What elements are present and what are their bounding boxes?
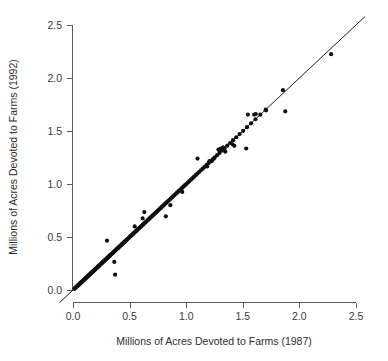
x-tick-group: 0.00.51.01.52.02.5 (66, 303, 364, 323)
x-tick-label: 0.0 (66, 310, 81, 322)
y-tick-label: 1.5 (47, 125, 62, 137)
scatter-plot-figure: 0.00.51.01.52.02.5 0.00.51.01.52.02.5 Mi… (0, 0, 388, 361)
scatter-point (232, 144, 236, 148)
y-tick-group: 0.00.51.01.52.02.5 (47, 19, 72, 296)
x-tick-label: 2.0 (292, 310, 307, 322)
x-tick-label: 1.5 (235, 310, 250, 322)
scatter-point (253, 117, 257, 121)
scatter-point (113, 273, 117, 277)
scatter-point (264, 108, 268, 112)
y-tick-label: 2.0 (47, 72, 62, 84)
scatter-point (164, 214, 168, 218)
scatter-point (168, 203, 172, 207)
scatter-point (112, 260, 116, 264)
scatter-point (231, 138, 235, 142)
y-tick-label: 0.5 (47, 231, 62, 243)
x-axis-title: Millions of Acres Devoted to Farms (1987… (116, 335, 312, 347)
scatter-point (329, 52, 333, 56)
x-tick-label: 1.0 (179, 310, 194, 322)
data-points-layer (59, 17, 365, 303)
scatter-point (283, 109, 287, 113)
scatter-point (249, 121, 253, 125)
scatter-point (244, 146, 248, 150)
scatter-point (241, 129, 245, 133)
scatter-points-group (72, 52, 333, 291)
scatter-point (258, 113, 262, 117)
scatter-point (254, 112, 258, 116)
scatter-point (223, 150, 227, 154)
y-tick-label: 2.5 (47, 19, 62, 31)
y-tick-label: 1.0 (47, 178, 62, 190)
x-tick-label: 2.5 (349, 310, 364, 322)
y-axis-title: Millions of Acres Devoted to Farms (1992… (7, 59, 19, 255)
scatter-point (180, 190, 184, 194)
scatter-point (246, 112, 250, 116)
scatter-point (142, 210, 146, 214)
scatter-point (238, 132, 242, 136)
plot-canvas: 0.00.51.01.52.02.5 0.00.51.01.52.02.5 Mi… (0, 0, 388, 361)
scatter-point (212, 156, 216, 160)
scatter-point (281, 88, 285, 92)
scatter-point (234, 135, 238, 139)
scatter-point (221, 145, 225, 149)
scatter-point (205, 164, 209, 168)
y-tick-label: 0.0 (47, 284, 62, 296)
scatter-point (141, 216, 145, 220)
scatter-point (105, 239, 109, 243)
scatter-point (133, 224, 137, 228)
scatter-point (245, 125, 249, 129)
scatter-point (195, 156, 199, 160)
x-tick-label: 0.5 (122, 310, 137, 322)
